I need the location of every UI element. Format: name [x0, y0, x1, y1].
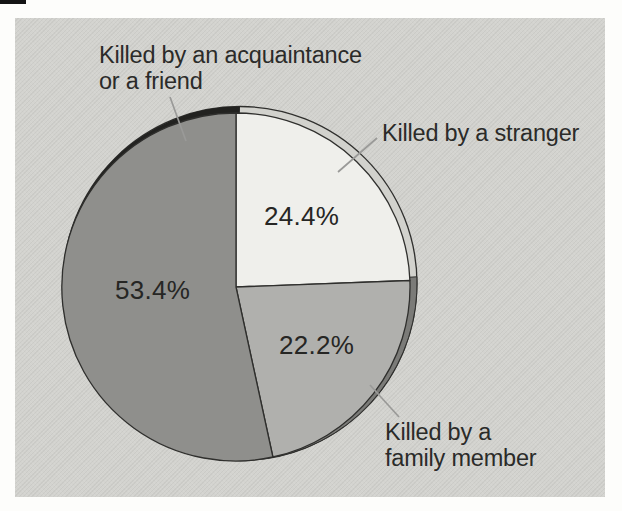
- callout-label-family: Killed by afamily member: [385, 419, 536, 471]
- callout-label-acquaintance: Killed by an acquaintanceor a friend: [99, 42, 362, 94]
- percent-label-family: 22.2%: [279, 332, 354, 358]
- callout-label-family-line1: Killed by a: [385, 419, 491, 445]
- percent-label-acquaintance: 53.4%: [115, 277, 190, 303]
- callout-label-acquaintance-line2: or a friend: [99, 68, 203, 94]
- callout-label-acquaintance-line1: Killed by an acquaintance: [99, 42, 362, 68]
- percent-label-stranger: 24.4%: [264, 203, 339, 229]
- leader-line-family: [370, 385, 399, 417]
- callout-label-family-line2: family member: [385, 445, 536, 471]
- callout-label-stranger: Killed by a stranger: [382, 120, 579, 146]
